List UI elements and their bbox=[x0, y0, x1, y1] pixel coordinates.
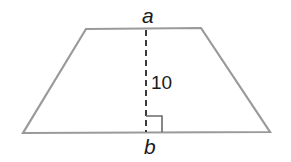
label-bottom-base-b: b bbox=[144, 135, 156, 158]
trapezoid-diagram: a 10 b bbox=[0, 0, 291, 162]
label-height-10: 10 bbox=[151, 72, 172, 93]
right-angle-marker bbox=[146, 116, 162, 132]
label-top-base-a: a bbox=[142, 4, 154, 27]
